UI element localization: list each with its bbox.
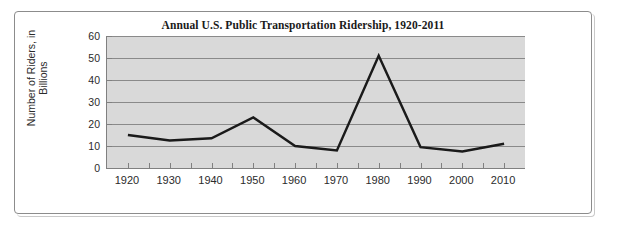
- plot-svg: [107, 36, 525, 168]
- y-axis-title: Number of Riders, in Billions: [25, 13, 49, 143]
- x-axis-tick-label: 2000: [449, 174, 473, 186]
- x-axis-tick-label: 1940: [198, 174, 222, 186]
- x-axis-tick-label: 1970: [324, 174, 348, 186]
- line-chart: Annual U.S. Public Transportation Riders…: [14, 11, 592, 214]
- x-axis-minor-ticks: [129, 163, 505, 168]
- x-axis-tick-label: 1980: [365, 174, 389, 186]
- y-axis-title-line2: Billions: [37, 13, 49, 143]
- y-axis-tick-label: 30: [76, 96, 100, 108]
- y-axis-title-line1: Number of Riders, in: [25, 30, 37, 126]
- x-axis-tick-label: 2010: [491, 174, 515, 186]
- y-axis-ticks: [107, 37, 112, 169]
- gridlines: [107, 37, 525, 147]
- x-axis-tick-label: 1920: [115, 174, 139, 186]
- y-axis-tick-label: 10: [76, 140, 100, 152]
- x-axis-tick-labels: 1920193019401950196019701980199020002010: [106, 174, 524, 194]
- y-axis-tick-label: 0: [76, 162, 100, 174]
- y-axis-tick-label: 60: [76, 30, 100, 42]
- y-axis-tick-labels: 0102030405060: [76, 36, 100, 168]
- y-axis-tick-label: 50: [76, 52, 100, 64]
- x-axis-tick-label: 1990: [407, 174, 431, 186]
- data-series-line: [128, 56, 504, 152]
- chart-page: Annual U.S. Public Transportation Riders…: [0, 0, 619, 232]
- y-axis-tick-label: 20: [76, 118, 100, 130]
- y-axis-tick-label: 40: [76, 74, 100, 86]
- plot-area: [106, 36, 525, 169]
- chart-title: Annual U.S. Public Transportation Riders…: [14, 19, 592, 31]
- x-axis-tick-label: 1930: [156, 174, 180, 186]
- x-axis-tick-label: 1950: [240, 174, 264, 186]
- x-axis-tick-label: 1960: [282, 174, 306, 186]
